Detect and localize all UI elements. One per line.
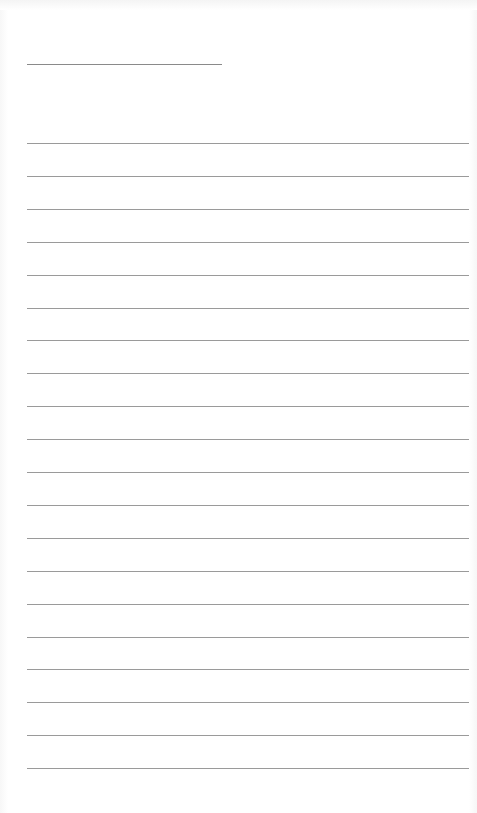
ruled-line — [27, 176, 469, 177]
ruled-line — [27, 439, 469, 440]
page-top-edge — [0, 0, 477, 10]
ruled-line — [27, 637, 469, 638]
ruled-line — [27, 735, 469, 736]
ruled-line — [27, 209, 469, 210]
ruled-line — [27, 604, 469, 605]
ruled-line — [27, 669, 469, 670]
ruled-line — [27, 340, 469, 341]
ruled-line — [27, 505, 469, 506]
ruled-line — [27, 242, 469, 243]
ruled-line — [27, 472, 469, 473]
lined-page — [0, 0, 477, 813]
ruled-line — [27, 143, 469, 144]
ruled-line — [27, 373, 469, 374]
ruled-line — [27, 406, 469, 407]
ruled-line — [27, 538, 469, 539]
ruled-line — [27, 308, 469, 309]
ruled-line — [27, 571, 469, 572]
ruled-line — [27, 275, 469, 276]
ruled-line — [27, 702, 469, 703]
ruled-line — [27, 768, 469, 769]
title-line — [27, 64, 222, 65]
